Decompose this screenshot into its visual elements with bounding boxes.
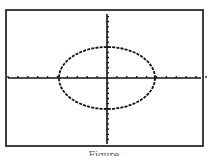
figure-caption: Figure [0,150,208,156]
calculator-plot [0,0,208,156]
